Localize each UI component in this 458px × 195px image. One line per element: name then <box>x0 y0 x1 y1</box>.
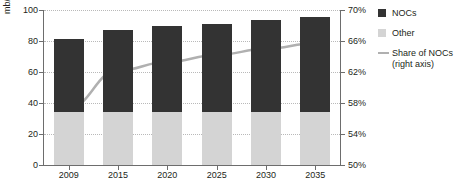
bar-segment-nocs <box>152 26 182 113</box>
x-tick-label: 2015 <box>108 170 128 180</box>
y-tick-label-right: 58% <box>348 98 366 108</box>
y-tick-label-left: 40 <box>28 98 38 108</box>
gridline <box>44 134 340 135</box>
gridline <box>44 72 340 73</box>
y-axis-right-line <box>340 10 341 166</box>
bar-segment-other <box>152 112 182 165</box>
bar-segment-nocs <box>54 39 84 112</box>
y-tick-left <box>39 134 44 135</box>
x-axis-line <box>43 165 341 166</box>
bar-segment-other <box>251 112 281 165</box>
legend-item-share-of-nocs: Share of NOCs (right axis) <box>378 48 453 70</box>
y-tick-left <box>39 41 44 42</box>
y-tick-right <box>340 103 345 104</box>
x-tick-label: 2035 <box>305 170 325 180</box>
bar-segment-nocs <box>103 30 133 112</box>
legend-label-share-of-nocs: Share of NOCs <box>392 48 453 59</box>
bar-segment-nocs <box>251 20 281 112</box>
legend-line-share-of-nocs <box>378 52 389 54</box>
bar-segment-nocs <box>202 24 232 112</box>
bar-segment-other <box>202 112 232 165</box>
x-tick-label: 2025 <box>207 170 227 180</box>
plot-area: 02040608010050%54%58%62%66%70%2009201520… <box>44 10 340 165</box>
bar-stack <box>251 20 281 165</box>
y-tick-left <box>39 72 44 73</box>
legend-item-other: Other <box>378 28 453 39</box>
gridline <box>44 103 340 104</box>
legend-swatch-nocs <box>378 9 386 17</box>
y-tick-right <box>340 10 345 11</box>
legend-label-nocs: NOCs <box>392 8 417 19</box>
bar-segment-nocs <box>300 17 330 112</box>
y-tick-left <box>39 103 44 104</box>
chart-legend: NOCs Other Share of NOCs (right axis) <box>378 8 453 79</box>
bar-segment-other <box>103 112 133 165</box>
gridline <box>44 10 340 11</box>
y-tick-label-right: 70% <box>348 5 366 15</box>
bar-segment-other <box>54 112 84 165</box>
legend-swatch-other <box>378 29 386 37</box>
gridline <box>44 41 340 42</box>
y-tick-label-right: 54% <box>348 129 366 139</box>
bar-stack <box>152 26 182 166</box>
y-tick-right <box>340 41 345 42</box>
x-tick-label: 2030 <box>256 170 276 180</box>
bar-segment-other <box>300 112 330 165</box>
y-axis-label-left: mb/d <box>2 0 12 14</box>
bar-stack <box>300 17 330 165</box>
y-tick-label-right: 66% <box>348 36 366 46</box>
legend-label-other: Other <box>392 28 415 39</box>
bar-stack <box>202 24 232 165</box>
y-tick-right <box>340 72 345 73</box>
y-tick-label-left: 20 <box>28 129 38 139</box>
y-tick-left <box>39 165 44 166</box>
share-of-nocs-line <box>44 10 340 165</box>
chart-container: mb/d 02040608010050%54%58%62%66%70%20092… <box>0 0 458 195</box>
x-tick-label: 2009 <box>59 170 79 180</box>
y-tick-right <box>340 165 345 166</box>
y-tick-label-right: 62% <box>348 67 366 77</box>
y-tick-label-left: 80 <box>28 36 38 46</box>
legend-label-share-of-nocs-sub: (right axis) <box>392 59 453 70</box>
bar-stack <box>103 30 133 165</box>
y-tick-label-left: 0 <box>33 160 38 170</box>
bar-stack <box>54 39 84 165</box>
y-tick-label-right: 50% <box>348 160 366 170</box>
y-tick-label-left: 100 <box>23 5 38 15</box>
y-tick-right <box>340 134 345 135</box>
y-tick-left <box>39 10 44 11</box>
y-tick-label-left: 60 <box>28 67 38 77</box>
x-tick-label: 2020 <box>157 170 177 180</box>
legend-item-nocs: NOCs <box>378 8 453 19</box>
